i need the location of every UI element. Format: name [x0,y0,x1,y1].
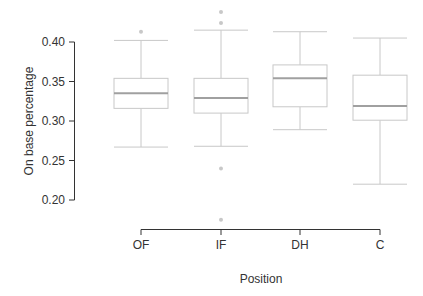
box-c [353,38,407,184]
x-tick-label: C [376,238,385,252]
outlier-point [139,30,143,34]
outlier-point [219,10,223,14]
outlier-point [219,166,223,170]
y-tick-label: 0.30 [42,114,66,128]
outlier-point [219,218,223,222]
y-axis-title: On base percentage [22,66,36,175]
iqr-box [194,78,248,113]
x-tick-label: OF [133,238,150,252]
iqr-box [273,65,327,107]
box-plot-chart: 0.200.250.300.350.40 OFIFDHC On base per… [0,0,423,296]
y-tick-label: 0.25 [42,154,66,168]
y-axis: 0.200.250.300.350.40 [42,35,75,207]
x-tick-label: IF [216,238,227,252]
boxes [114,10,407,222]
x-tick-label: DH [291,238,308,252]
box-if [194,10,248,222]
x-axis-title: Position [240,272,283,286]
box-of [114,30,168,147]
y-tick-label: 0.35 [42,75,66,89]
x-axis: OFIFDHC [133,230,385,253]
y-tick-label: 0.20 [42,193,66,207]
outlier-point [219,21,223,25]
iqr-box [353,75,407,120]
y-tick-label: 0.40 [42,35,66,49]
box-dh [273,32,327,130]
